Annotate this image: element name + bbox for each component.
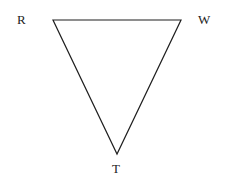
vertex-label-r: R <box>17 13 26 26</box>
triangle-rwt-outline <box>53 20 181 154</box>
geometry-figure-canvas: R W T <box>0 0 229 189</box>
vertex-label-w: W <box>198 13 210 26</box>
vertex-label-t: T <box>112 162 120 175</box>
